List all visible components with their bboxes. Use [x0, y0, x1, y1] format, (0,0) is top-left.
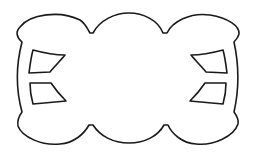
outer-frame-outline	[17, 13, 239, 144]
cutout-upper-right	[191, 50, 227, 73]
cutout-lower-left	[30, 83, 66, 104]
figure-canvas: Line drawing of a scalloped cloud-like f…	[0, 0, 256, 155]
scalloped-frame-drawing	[0, 0, 256, 155]
cutout-lower-right	[190, 83, 226, 104]
cutout-upper-left	[29, 50, 65, 73]
